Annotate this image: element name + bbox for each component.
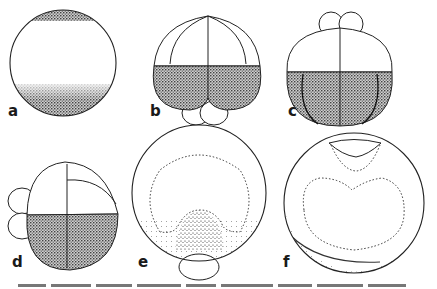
- panel-label-c: c: [288, 104, 297, 119]
- panel-c-16-cell: [287, 12, 392, 126]
- panel-label-b: b: [150, 104, 161, 119]
- panel-f-section: [284, 133, 424, 280]
- figure-canvas: [0, 0, 437, 289]
- figure-caption-cropped: [18, 284, 437, 289]
- panel-e-section: [130, 125, 270, 280]
- panel-a-egg: [0, 8, 130, 124]
- panel-label-d: d: [12, 255, 23, 270]
- panel-label-f: f: [283, 255, 290, 270]
- panel-d-lateral: [8, 162, 118, 270]
- panel-label-a: a: [8, 104, 18, 119]
- panel-label-e: e: [138, 255, 148, 270]
- panel-b-8-cell: [153, 16, 261, 125]
